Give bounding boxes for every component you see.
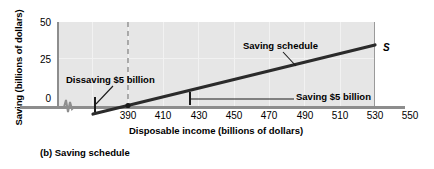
x-tick-label: 390 [113,110,143,121]
grid-line-vertical [128,22,129,107]
grid-line-vertical [163,22,164,107]
x-tick-label: 490 [290,110,320,121]
x-tick-label: 510 [325,110,355,121]
y-tick-label-50: 50 [25,17,51,28]
x-tick-label: 470 [254,110,284,121]
y-axis-line [57,22,59,107]
grid-line-vertical [234,22,235,107]
axis-break-icon [58,96,82,114]
grid-line-vertical [269,22,270,107]
x-tick-label: 410 [148,110,178,121]
grid-line-vertical [92,22,93,107]
y-axis-title: Saving (billions of dollars) [13,3,24,133]
annotation-dissaving: Dissaving $5 billion [66,74,155,85]
y-tick-label-25: 25 [25,54,51,65]
y-tick-label-0: 0 [25,93,51,104]
curve-label-s: S [383,42,390,53]
grid-line-vertical [198,22,199,107]
grid-line-horizontal [57,58,374,59]
figure-caption: (b) Saving schedule [40,147,130,158]
x-tick-label: 450 [219,110,249,121]
annotation-saving: Saving $5 billion [296,91,371,102]
annotation-saving-schedule: Saving schedule [243,40,318,51]
x-tick-label: 430 [184,110,214,121]
x-tick-label: 550 [395,110,425,121]
x-axis-title: Disposable income (billions of dollars) [57,125,375,136]
saving-schedule-figure: Saving (billions of dollars) 50 25 0 [0,0,434,169]
x-tick-label: 530 [360,110,390,121]
